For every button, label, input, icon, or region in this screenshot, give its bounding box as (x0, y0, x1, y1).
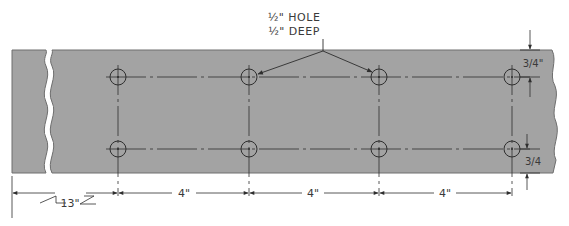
dim-overall-left: 13" (60, 197, 79, 210)
plate-left-section (12, 50, 48, 173)
dim-spacing-3: 4" (439, 187, 451, 200)
dim-spacing-1: 4" (178, 187, 190, 200)
dim-edge-top: 3/4" (523, 58, 544, 69)
horizontal-dimensions (12, 176, 511, 218)
plate-right-section (50, 50, 557, 173)
note-line-2: ½" DEEP (268, 25, 320, 38)
drilled-plate-drawing: ½" HOLE ½" DEEP 13" 4" 4" 4" 3/4 (0, 0, 569, 226)
plate (12, 50, 557, 173)
dim-spacing-2: 4" (307, 187, 319, 200)
dim-break-right (80, 196, 96, 204)
note-line-1: ½" HOLE (268, 11, 321, 24)
dim-edge-bottom: 3/4 (525, 156, 541, 167)
